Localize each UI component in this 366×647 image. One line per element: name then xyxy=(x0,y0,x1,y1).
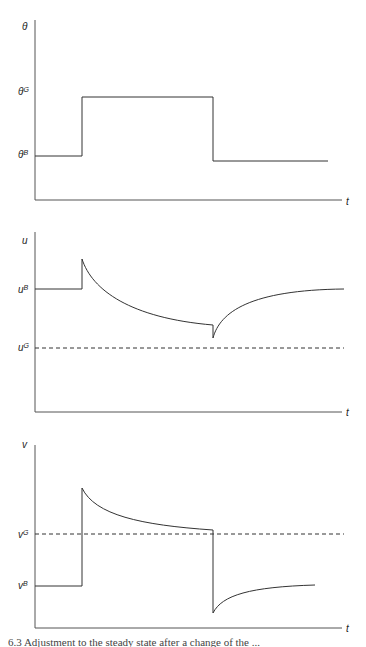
theta-g-label: θG xyxy=(18,86,29,97)
theta-axes xyxy=(35,20,342,200)
v-axis-label: v xyxy=(22,439,28,450)
t-axis-label: t xyxy=(346,196,350,207)
figure-caption: 6.3 Adjustment to the steady state after… xyxy=(8,636,260,647)
theta-panel: θ t θG θB xyxy=(18,20,350,207)
theta-axis-label: θ xyxy=(22,21,28,32)
theta-b-label: θB xyxy=(18,149,28,160)
figure-diagram: θ t θG θB u t uB uG v t vG vB xyxy=(0,0,366,647)
v-b-label: vB xyxy=(18,580,28,591)
u-g-label: uG xyxy=(18,342,30,353)
v-axes xyxy=(35,445,342,628)
v-g-label: vG xyxy=(18,529,29,540)
v-curve xyxy=(35,488,315,613)
theta-step-curve xyxy=(35,97,328,161)
u-curve xyxy=(35,259,344,338)
v-panel: v t vG vB xyxy=(18,439,350,634)
u-b-label: uB xyxy=(18,284,29,295)
u-panel: u t uB uG xyxy=(18,232,350,418)
t-axis-label: t xyxy=(346,623,350,634)
u-axis-label: u xyxy=(22,235,28,246)
t-axis-label: t xyxy=(346,407,350,418)
